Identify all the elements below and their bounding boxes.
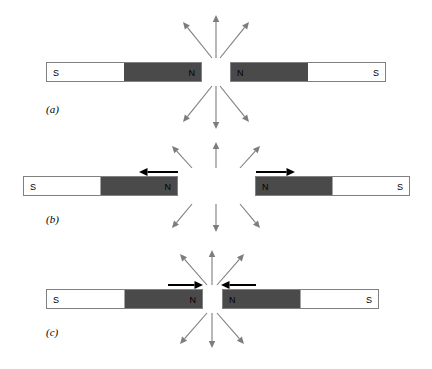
- magnet-left: SN: [46, 62, 202, 82]
- field-arrow-down-left-head: [183, 115, 190, 122]
- magnet-row-a: SNSN: [46, 15, 386, 129]
- magnet-left-south-label: S: [30, 182, 36, 192]
- field-arrow-down-left-shaft: [187, 86, 212, 117]
- force-arrow-right-head: [287, 168, 296, 176]
- magnet-left: SN: [23, 176, 178, 196]
- magnet-right: SN: [222, 289, 379, 309]
- field-arrow-up-right-shaft: [240, 151, 255, 168]
- magnet-figure: SNSNSNSNSNSN (a)(b)(c): [0, 0, 432, 369]
- magnet-row-b: SNSN: [23, 142, 410, 232]
- field-arrow-up-right-head: [242, 22, 249, 29]
- field-arrow-up-left-shaft: [177, 151, 192, 168]
- magnet-right-south-label: S: [397, 182, 403, 192]
- magnet-left-south-label: S: [53, 295, 59, 305]
- field-arrow-up-left-shaft: [185, 259, 207, 285]
- field-arrow-down-left-shaft: [176, 204, 192, 223]
- force-arrow-left-head: [195, 281, 204, 289]
- field-arrow-up-right-shaft: [217, 259, 239, 285]
- field-arrow-down-right-shaft: [220, 86, 245, 117]
- magnet-right: SN: [230, 62, 386, 82]
- row-label-a: (a): [46, 103, 59, 115]
- magnet-left-north-label: N: [190, 295, 197, 305]
- magnet-right-south-label: S: [373, 68, 379, 78]
- magnet-row-c: SNSN: [46, 250, 379, 348]
- row-label-b: (b): [46, 213, 59, 225]
- row-label-c: (c): [46, 326, 58, 338]
- force-arrow-left-head: [139, 168, 148, 176]
- field-arrow-down-right-shaft: [240, 204, 256, 223]
- figure-canvas: SNSNSNSNSNSN: [0, 0, 432, 369]
- magnet-left-south-label: S: [53, 68, 59, 78]
- magnet-right-north-label: N: [229, 295, 236, 305]
- magnet-right-south-label: S: [366, 295, 372, 305]
- field-arrow-up-center-head: [213, 142, 220, 149]
- field-arrow-down-left-shaft: [185, 313, 207, 339]
- field-arrow-down-center-head: [213, 122, 220, 129]
- field-arrow-up-left-shaft: [187, 27, 212, 58]
- field-arrow-up-left-head: [183, 22, 190, 29]
- magnet-left-north-label: N: [189, 68, 196, 78]
- force-arrow-right-head: [221, 281, 230, 289]
- field-arrow-up-center-head: [209, 250, 216, 257]
- magnet-right-north-label: N: [262, 182, 269, 192]
- field-arrow-down-right-head: [242, 115, 249, 122]
- magnet-left-north-label: N: [165, 182, 172, 192]
- field-arrow-up-center-head: [213, 15, 220, 22]
- field-arrow-up-right-shaft: [220, 27, 245, 58]
- field-arrow-down-right-shaft: [217, 313, 239, 339]
- magnet-right: SN: [255, 176, 410, 196]
- magnet-right-north-label: N: [237, 68, 244, 78]
- field-arrow-down-center-head: [213, 225, 220, 232]
- field-arrow-down-center-head: [209, 341, 216, 348]
- magnet-left: SN: [46, 289, 203, 309]
